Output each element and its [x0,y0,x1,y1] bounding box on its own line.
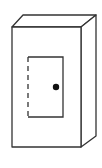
cabinet-side-face [81,15,96,147]
cabinet-front-face [12,27,81,147]
door-knob-icon [53,84,59,90]
cabinet-illustration [0,0,102,168]
cabinet-icon [12,15,96,147]
